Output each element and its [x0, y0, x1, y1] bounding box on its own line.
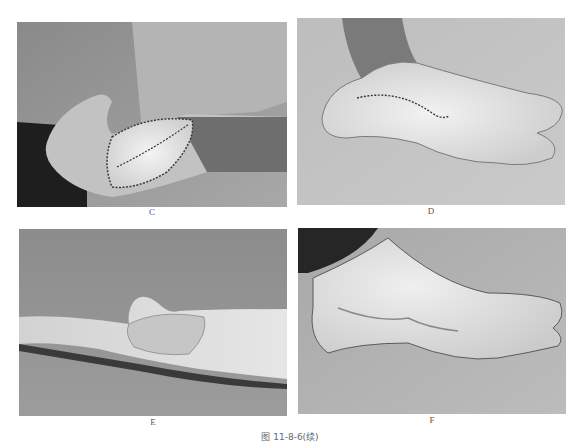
panel-label-e: E	[138, 417, 168, 427]
photo-panel-c	[17, 22, 287, 207]
panel-label-d: D	[416, 206, 446, 216]
hand-flap-photo	[17, 22, 287, 207]
photo-panel-e	[19, 229, 287, 416]
photo-panel-d	[297, 18, 565, 205]
healed-hand-photo	[19, 229, 287, 416]
panel-label-c: C	[137, 207, 167, 217]
figure-caption: 图 11-8-6(续)	[0, 430, 580, 443]
healed-foot-photo	[298, 228, 566, 414]
foot-sole-photo	[297, 18, 565, 205]
photo-panel-f	[298, 228, 566, 414]
panel-label-f: F	[417, 415, 447, 425]
